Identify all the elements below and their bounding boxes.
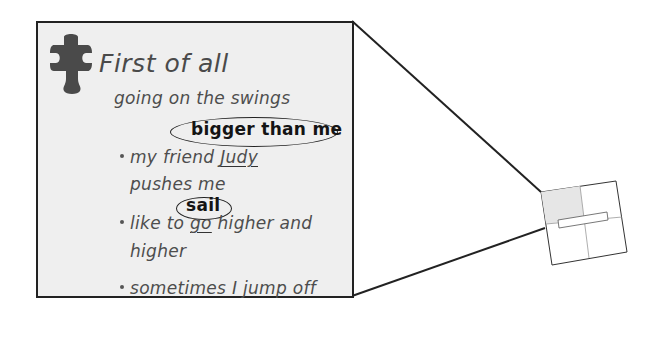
underlined-word: Judy xyxy=(220,147,258,167)
bullet-dot xyxy=(120,220,124,224)
bullet-dot xyxy=(120,285,124,289)
line-higher: higher xyxy=(130,241,186,261)
bullet-sometimes-jump-off: sometimes I jump off xyxy=(120,278,316,298)
circled-word-sail: sail xyxy=(186,195,220,215)
zoomed-page-panel: First of all going on the swings bigger … xyxy=(36,21,354,298)
bullet-dot xyxy=(120,154,124,158)
line-going-on-swings: going on the swings xyxy=(114,88,290,108)
bullet-my-friend-judy: my friend Judy xyxy=(120,147,258,167)
line-pushes-me: pushes me xyxy=(130,174,226,194)
puzzle-piece-icon xyxy=(50,33,92,95)
thumbnail-page xyxy=(541,181,627,265)
heading: First of all xyxy=(99,49,229,78)
circled-phrase-bigger-than-me: bigger than me xyxy=(191,119,342,139)
underlined-word: go xyxy=(190,213,212,233)
bullet-like-to-go-higher: like to go higher and xyxy=(120,213,312,233)
